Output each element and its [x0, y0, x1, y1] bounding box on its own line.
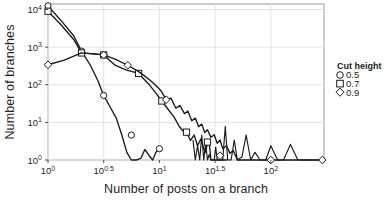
- data-point-circle: [128, 132, 134, 138]
- data-point-square: [204, 139, 210, 145]
- chart-figure: 100100.5101101.5102 100101102103104 Numb…: [0, 0, 390, 204]
- legend-title: Cut height: [337, 61, 382, 71]
- data-point-circle: [337, 72, 344, 79]
- legend-item-0.9[interactable]: 0.9: [336, 87, 359, 98]
- x-axis-title: Number of posts on a branch: [104, 182, 268, 196]
- data-point-square: [337, 80, 344, 87]
- y-axis-title: Number of branches: [3, 24, 17, 139]
- plot-panel: [48, 4, 324, 160]
- data-point-circle: [101, 92, 107, 98]
- loglog-line-chart: 100100.5101101.5102 100101102103104 Numb…: [0, 0, 390, 204]
- panel-border: [48, 4, 324, 160]
- data-point-circle: [156, 146, 162, 152]
- data-point-square: [183, 129, 189, 135]
- legend-items: 0.50.70.9: [336, 69, 359, 97]
- legend-item-label: 0.9: [346, 87, 359, 98]
